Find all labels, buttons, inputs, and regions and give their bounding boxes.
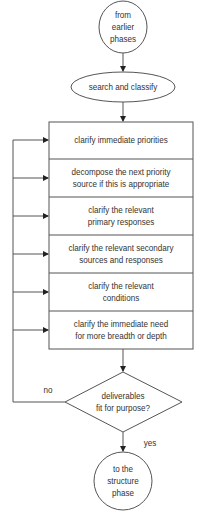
process-row-6: clarify the immediate need for more brea… — [60, 318, 182, 342]
process-row-5: clarify the relevant conditions — [60, 280, 182, 304]
end-node-label: to the structure phase — [98, 463, 149, 499]
decision-no-label: no — [40, 384, 57, 396]
process-row-4: clarify the relevant secondary sources a… — [52, 242, 190, 266]
start-node-label: from earlier phases — [98, 9, 149, 45]
process-row-1: clarify immediate priorities — [60, 134, 182, 146]
decision-node-label: deliverables fit for purpose? — [89, 390, 157, 414]
search-node-label: search and classify — [78, 81, 168, 93]
process-row-3: clarify the relevant primary responses — [60, 204, 182, 228]
process-row-2: decompose the next priority source if th… — [60, 166, 182, 190]
decision-yes-label: yes — [140, 437, 160, 449]
feedback-loop-line — [13, 140, 65, 402]
